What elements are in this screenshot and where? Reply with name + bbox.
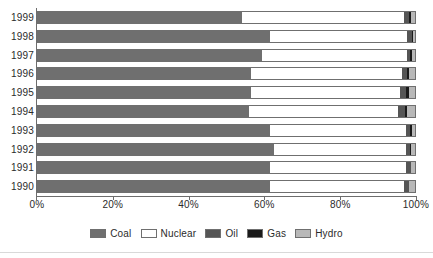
bar-segment-nuclear [251,68,402,79]
bar-segment-nuclear [270,162,406,173]
bar-row [37,86,416,99]
bar-segment-nuclear [270,31,408,42]
bar-segment-coal [38,12,242,23]
bar-row [37,161,416,174]
legend-item-oil[interactable]: Oil [205,228,238,239]
x-axis-tick-label: 100% [403,199,429,210]
legend-swatch-coal [90,229,106,238]
y-axis-tick-label: 1994 [2,105,34,118]
bar-segment-hydro [409,87,415,98]
bar-row [37,30,416,43]
legend-item-coal[interactable]: Coal [90,228,131,239]
legend-label: Oil [225,228,238,239]
page-edge-divider [0,252,433,253]
bar-row [37,143,416,156]
bar-segment-coal [38,162,270,173]
y-axis-tick-label: 1990 [2,180,34,193]
y-axis-tick-label: 1997 [2,49,34,62]
bar-row [37,180,416,193]
bar-segment-hydro [409,181,415,192]
legend-item-hydro[interactable]: Hydro [295,228,343,239]
bar-segment-hydro [412,125,415,136]
y-axis-tick-label: 1992 [2,143,34,156]
bar-segment-nuclear [251,87,400,98]
bar-segment-oil [398,106,405,117]
bar-row [37,124,416,137]
bar-segment-hydro [407,106,415,117]
bar-segment-nuclear [262,50,407,61]
bar-segment-nuclear [249,106,398,117]
bar-segment-nuclear [242,12,404,23]
legend-label: Coal [110,228,131,239]
bar-segment-coal [38,125,270,136]
bar-segment-hydro [409,68,415,79]
bar-segment-coal [38,144,274,155]
y-axis-tick-label: 1995 [2,86,34,99]
legend-label: Nuclear [161,228,197,239]
plot-area [37,8,416,196]
bar-row [37,105,416,118]
legend-swatch-nuclear [141,229,157,238]
legend-item-gas[interactable]: Gas [247,228,286,239]
legend-label: Gas [267,228,286,239]
bar-segment-nuclear [270,181,404,192]
y-axis-tick-label: 1991 [2,161,34,174]
legend-swatch-oil [205,229,221,238]
bar-segment-coal [38,68,251,79]
bar-segment-nuclear [270,125,406,136]
y-axis-tick-label: 1998 [2,30,34,43]
bar-segment-hydro [411,162,415,173]
bar-segment-coal [38,106,249,117]
x-axis-tick-label: 0% [30,199,45,210]
bar-segment-nuclear [274,144,406,155]
y-axis-tick-label: 1996 [2,67,34,80]
legend-swatch-hydro [295,229,311,238]
bar-row [37,11,416,24]
y-axis-tick-label: 1999 [2,11,34,24]
bar-row [37,67,416,80]
bar-segment-hydro [411,12,415,23]
bar-row [37,49,416,62]
y-axis-tick-label: 1993 [2,124,34,137]
x-axis-tick-label: 40% [178,199,199,210]
bar-segment-coal [38,50,262,61]
bar-segment-hydro [412,50,415,61]
legend-swatch-gas [247,229,263,238]
x-axis-tick-label: 80% [330,199,351,210]
stacked-bar-chart: 1999199819971996199519941993199219911990… [0,0,433,258]
legend-label: Hydro [315,228,343,239]
chart-title [0,0,433,7]
bar-segment-hydro [413,31,415,42]
x-axis-tick-label: 60% [254,199,275,210]
legend-item-nuclear[interactable]: Nuclear [141,228,197,239]
chart-legend: CoalNuclearOilGasHydro [0,228,433,239]
x-axis-line [36,196,417,197]
x-axis-tick-label: 20% [102,199,123,210]
bar-segment-hydro [411,144,415,155]
y-axis-labels: 1999199819971996199519941993199219911990 [0,8,34,196]
bar-segment-coal [38,31,270,42]
bar-segment-coal [38,181,270,192]
bar-segment-coal [38,87,251,98]
